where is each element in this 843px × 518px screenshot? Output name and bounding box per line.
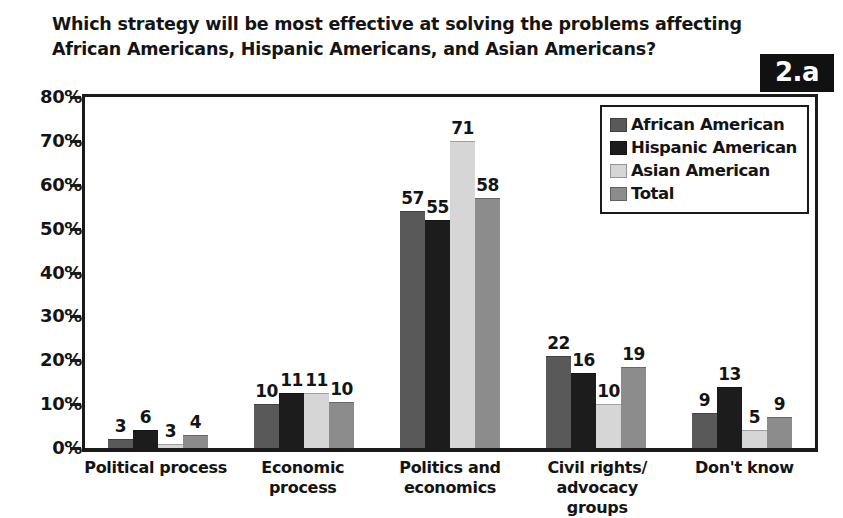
legend-item: Total bbox=[610, 182, 799, 205]
bar bbox=[304, 393, 329, 448]
bar bbox=[742, 430, 767, 448]
y-axis-tick-mark bbox=[70, 359, 81, 362]
legend-swatch-total bbox=[610, 187, 627, 201]
legend-swatch-asian-american bbox=[610, 164, 627, 178]
y-axis: 0%10%20%30%40%50%60%70%80% bbox=[0, 94, 82, 452]
bar bbox=[425, 220, 450, 448]
bar-value-label: 4 bbox=[177, 412, 214, 432]
x-axis-category-label: Political process bbox=[82, 458, 229, 478]
bar bbox=[400, 211, 425, 448]
y-axis-tick-mark bbox=[70, 272, 81, 275]
x-axis-category-label: Economic process bbox=[229, 458, 376, 498]
x-axis-category-line: economics bbox=[376, 478, 523, 498]
bar-value-label: 71 bbox=[444, 118, 481, 138]
bar bbox=[692, 413, 717, 448]
bar-group: 57557158 bbox=[377, 97, 523, 448]
x-axis-category-label: Politics andeconomics bbox=[376, 458, 523, 498]
x-axis-category-line: advocacy groups bbox=[524, 478, 671, 518]
x-axis-category-label: Civil rights/advocacy groups bbox=[524, 458, 671, 518]
y-axis-tick-mark bbox=[70, 228, 81, 231]
legend-label-total: Total bbox=[631, 184, 674, 203]
bar-value-label: 9 bbox=[761, 394, 798, 414]
bar-value-label: 13 bbox=[711, 364, 748, 384]
bar bbox=[767, 417, 792, 448]
y-axis-tick-mark bbox=[70, 140, 81, 143]
x-axis-category-line: Civil rights/ bbox=[524, 458, 671, 478]
y-axis-tick-mark bbox=[70, 96, 81, 99]
legend-label-african-american: African American bbox=[631, 115, 784, 134]
y-axis-tick-mark bbox=[70, 184, 81, 187]
chart-title-line-1: Which strategy will be most effective at… bbox=[52, 12, 752, 37]
bar bbox=[621, 367, 646, 448]
bar-value-label: 10 bbox=[323, 379, 360, 399]
x-axis-category-line: Political process bbox=[82, 458, 229, 478]
legend-swatch-african-american bbox=[610, 118, 627, 132]
x-axis-category-line: Economic process bbox=[229, 458, 376, 498]
bar-value-label: 19 bbox=[615, 344, 652, 364]
chart-legend: African American Hispanic American Asian… bbox=[600, 105, 809, 214]
x-axis-category-label: Don't know bbox=[671, 458, 818, 478]
bar bbox=[596, 404, 621, 448]
bar bbox=[108, 439, 133, 448]
chart-title: Which strategy will be most effective at… bbox=[52, 12, 752, 62]
x-axis-category-line: Don't know bbox=[671, 458, 818, 478]
bar bbox=[329, 402, 354, 448]
legend-item: Hispanic American bbox=[610, 136, 799, 159]
chart-title-line-2: African Americans, Hispanic Americans, a… bbox=[52, 37, 752, 62]
bar-group: 10111110 bbox=[231, 97, 377, 448]
bar bbox=[475, 198, 500, 448]
legend-item: African American bbox=[610, 113, 799, 136]
x-axis-labels: Political processEconomic processPolitic… bbox=[82, 458, 818, 516]
x-axis-category-line: Politics and bbox=[376, 458, 523, 478]
bar bbox=[254, 404, 279, 448]
y-axis-tick-mark bbox=[70, 315, 81, 318]
legend-swatch-hispanic-american bbox=[610, 141, 627, 155]
chart-figure: Which strategy will be most effective at… bbox=[0, 0, 843, 518]
bar bbox=[158, 444, 183, 448]
y-axis-tick-mark bbox=[70, 447, 81, 450]
figure-number-badge: 2.a bbox=[760, 54, 834, 92]
legend-label-hispanic-american: Hispanic American bbox=[631, 138, 797, 157]
y-axis-tick-mark bbox=[70, 403, 81, 406]
bar-value-label: 16 bbox=[565, 350, 602, 370]
bar bbox=[279, 393, 304, 448]
bar-value-label: 58 bbox=[469, 175, 506, 195]
bar bbox=[183, 435, 208, 448]
bar-group: 3634 bbox=[85, 97, 231, 448]
legend-label-asian-american: Asian American bbox=[631, 161, 770, 180]
legend-item: Asian American bbox=[610, 159, 799, 182]
